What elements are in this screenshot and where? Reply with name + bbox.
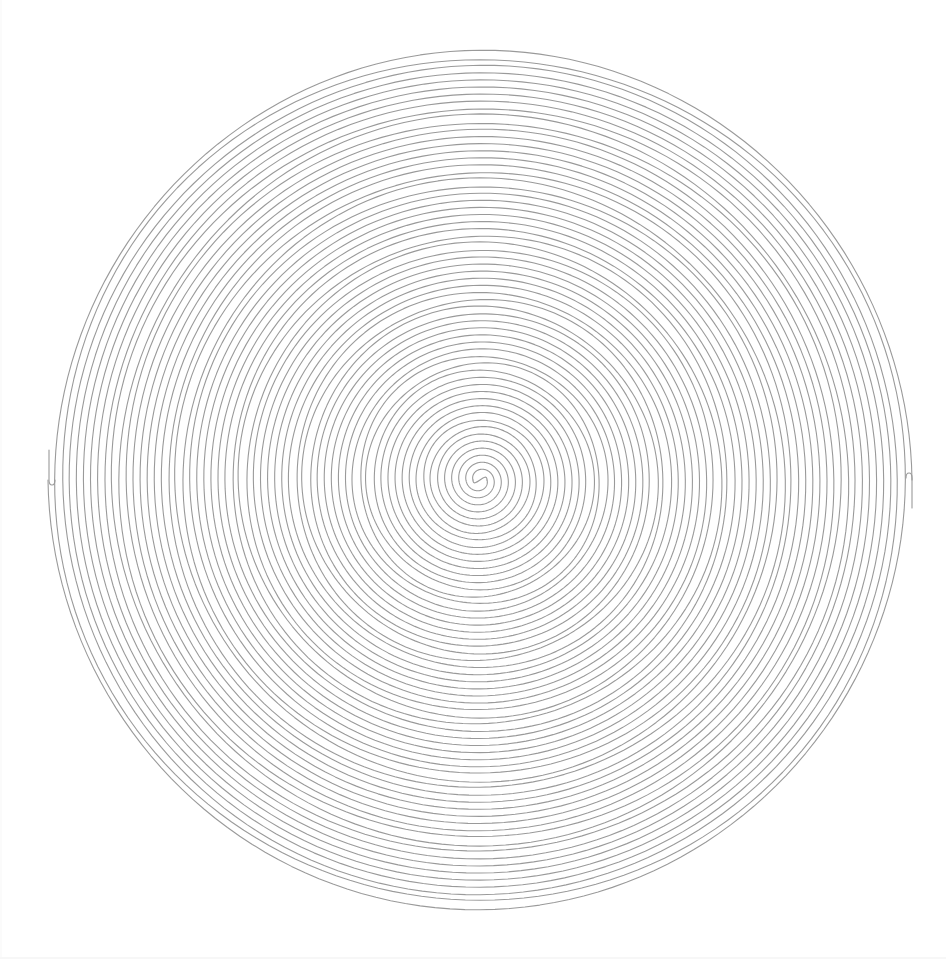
double-spiral-artwork <box>0 0 946 959</box>
spiral-arm-b <box>55 50 912 900</box>
center-s-curve <box>473 477 487 483</box>
outer-end-cap-left <box>49 450 55 485</box>
outer-end-cap-right <box>906 473 912 508</box>
spiral-arm-a <box>48 60 905 910</box>
